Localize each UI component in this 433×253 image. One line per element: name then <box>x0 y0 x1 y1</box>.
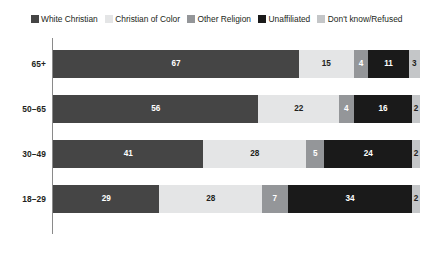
chart-legend: White ChristianChristian of ColorOther R… <box>0 14 433 24</box>
bar-row: 65+67154113 <box>0 50 433 78</box>
plot-area: 65+6715411350–655622416230–494128524218–… <box>0 38 433 238</box>
bar-segment-value: 5 <box>313 149 318 159</box>
bar-segment-value: 28 <box>250 149 259 159</box>
bar-segment-value: 2 <box>414 104 419 114</box>
legend-item-label: Christian of Color <box>115 14 180 24</box>
bar-group: 65+6715411350–655622416230–494128524218–… <box>0 38 433 218</box>
bar-row: 18–2929287342 <box>0 185 433 213</box>
bar-segment[interactable]: 34 <box>288 185 413 213</box>
bar-track: 41285242 <box>53 140 420 168</box>
category-axis-label: 18–29 <box>0 185 46 213</box>
bar-segment-value: 4 <box>344 104 349 114</box>
legend-swatch-icon <box>187 15 195 23</box>
bar-segment[interactable]: 41 <box>53 140 203 168</box>
bar-segment[interactable]: 4 <box>354 50 369 78</box>
bar-segment[interactable]: 2 <box>412 95 419 123</box>
bar-segment-value: 4 <box>359 59 364 69</box>
bar-track: 29287342 <box>53 185 420 213</box>
category-axis-label: 30–49 <box>0 140 46 168</box>
bar-segment[interactable]: 29 <box>53 185 159 213</box>
legend-item[interactable]: Other Religion <box>187 14 251 24</box>
bar-segment-value: 67 <box>171 59 180 69</box>
legend-item[interactable]: Don't know/Refused <box>317 14 402 24</box>
bar-segment[interactable]: 11 <box>368 50 408 78</box>
bar-segment-value: 24 <box>364 149 373 159</box>
bar-segment[interactable]: 28 <box>159 185 262 213</box>
bar-track: 56224162 <box>53 95 420 123</box>
bar-segment-value: 16 <box>378 104 387 114</box>
bar-segment-value: 2 <box>414 194 419 204</box>
legend-item[interactable]: White Christian <box>31 14 98 24</box>
bar-row: 30–4941285242 <box>0 140 433 168</box>
bar-segment[interactable]: 24 <box>324 140 412 168</box>
legend-item[interactable]: Christian of Color <box>105 14 180 24</box>
legend-swatch-icon <box>105 15 113 23</box>
bar-segment[interactable]: 3 <box>409 50 420 78</box>
category-axis-label: 50–65 <box>0 95 46 123</box>
bar-segment-value: 34 <box>345 194 354 204</box>
bar-segment[interactable]: 7 <box>262 185 288 213</box>
bar-track: 67154113 <box>53 50 420 78</box>
bar-segment[interactable]: 15 <box>299 50 354 78</box>
bar-segment[interactable]: 28 <box>203 140 306 168</box>
bar-segment-value: 56 <box>151 104 160 114</box>
bar-segment[interactable]: 4 <box>339 95 354 123</box>
legend-item-label: Don't know/Refused <box>328 14 403 24</box>
bar-segment[interactable]: 2 <box>412 185 419 213</box>
category-axis-label: 65+ <box>0 50 46 78</box>
legend-swatch-icon <box>317 15 325 23</box>
bar-segment-value: 15 <box>322 59 331 69</box>
bar-segment-value: 2 <box>414 149 419 159</box>
bar-segment[interactable]: 22 <box>258 95 339 123</box>
legend-item[interactable]: Unaffiliated <box>258 14 310 24</box>
bar-segment[interactable]: 2 <box>412 140 419 168</box>
bar-segment-value: 3 <box>412 59 417 69</box>
bar-segment[interactable]: 56 <box>53 95 258 123</box>
bar-segment-value: 22 <box>294 104 303 114</box>
bar-segment-value: 28 <box>206 194 215 204</box>
legend-item-label: White Christian <box>41 14 98 24</box>
bar-row: 50–6556224162 <box>0 95 433 123</box>
legend-swatch-icon <box>31 15 39 23</box>
stacked-bar-chart: White ChristianChristian of ColorOther R… <box>0 0 433 253</box>
bar-segment-value: 7 <box>273 194 278 204</box>
bar-segment[interactable]: 5 <box>306 140 324 168</box>
bar-segment-value: 29 <box>102 194 111 204</box>
bar-segment-value: 11 <box>384 59 393 69</box>
legend-item-label: Other Religion <box>197 14 251 24</box>
bar-segment[interactable]: 67 <box>53 50 299 78</box>
legend-swatch-icon <box>258 15 266 23</box>
bar-segment[interactable]: 16 <box>354 95 413 123</box>
legend-item-label: Unaffiliated <box>269 14 311 24</box>
bar-segment-value: 41 <box>124 149 133 159</box>
